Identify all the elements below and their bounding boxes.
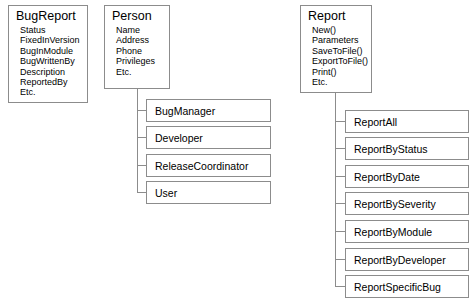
subclass-box-reportspecificbug[interactable]: ReportSpecificBug [345,275,469,298]
member-item: BugInModule [20,46,87,56]
member-item: ReportedBy [20,77,87,87]
member-item: Phone [116,46,169,56]
connector-report-branch [335,121,345,122]
class-box-report[interactable]: Report New() Parameters SaveToFile() Exp… [300,5,372,93]
member-item: Etc. [20,87,87,97]
class-box-person[interactable]: Person Name Address Phone Privileges Etc… [104,5,170,89]
member-item: Etc. [312,77,371,87]
member-item: New() [312,25,371,35]
class-title-bugreport: BugReport [9,6,87,25]
member-item: FixedInVersion [20,35,87,45]
class-box-bugreport[interactable]: BugReport Status FixedInVersion BugInMod… [8,5,88,103]
class-diagram-canvas: BugReport Status FixedInVersion BugInMod… [0,0,474,303]
subclass-box-reportbymodule[interactable]: ReportByModule [345,220,469,243]
subclass-box-reportbyseverity[interactable]: ReportBySeverity [345,192,469,215]
subclass-label: ReportByStatus [346,143,428,155]
member-item: Print() [312,67,371,77]
class-members-bugreport: Status FixedInVersion BugInModule BugWri… [9,25,87,101]
connector-report-branch [335,148,345,149]
class-title-person: Person [105,6,169,25]
subclass-label: ReportAll [346,116,397,128]
connector-report-branch [335,176,345,177]
member-item: Status [20,25,87,35]
subclass-label: ReleaseCoordinator [147,160,248,172]
connector-person-branch [137,110,146,111]
connector-report-trunk [335,93,336,287]
member-item: Parameters [312,35,371,45]
connector-report-branch [335,231,345,232]
member-item: Privileges [116,56,169,66]
subclass-label: Developer [147,132,203,144]
subclass-box-reportbydate[interactable]: ReportByDate [345,165,469,188]
subclass-label: ReportBySeverity [346,198,436,210]
subclass-box-reportall[interactable]: ReportAll [345,110,469,133]
subclass-box-reportbydeveloper[interactable]: ReportByDeveloper [345,248,469,271]
connector-person-branch [137,137,146,138]
class-title-report: Report [301,6,371,25]
subclass-box-releasecoordinator[interactable]: ReleaseCoordinator [146,154,271,177]
subclass-box-reportbystatus[interactable]: ReportByStatus [345,137,469,160]
connector-person-trunk [137,89,138,193]
connector-person-branch [137,192,146,193]
subclass-label: ReportByDeveloper [346,254,446,266]
subclass-box-user[interactable]: User [146,181,271,204]
member-item: BugWrittenBy [20,56,87,66]
subclass-label: User [147,187,177,199]
subclass-label: ReportByModule [346,226,432,238]
connector-report-branch [335,203,345,204]
connector-report-branch [335,259,345,260]
connector-report-branch [335,286,345,287]
class-members-person: Name Address Phone Privileges Etc. [105,25,169,80]
member-item: Description [20,67,87,77]
subclass-label: BugManager [147,105,215,117]
member-item: Name [116,25,169,35]
member-item: Address [116,35,169,45]
subclass-box-bugmanager[interactable]: BugManager [146,99,271,122]
member-item: SaveToFile() [312,46,371,56]
connector-person-branch [137,165,146,166]
subclass-box-developer[interactable]: Developer [146,126,271,149]
member-item: Etc. [116,67,169,77]
subclass-label: ReportByDate [346,171,420,183]
subclass-label: ReportSpecificBug [346,281,441,293]
class-members-report: New() Parameters SaveToFile() ExportToFi… [301,25,371,90]
member-item: ExportToFile() [312,56,371,66]
